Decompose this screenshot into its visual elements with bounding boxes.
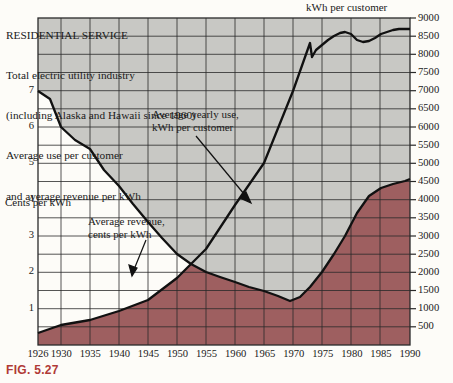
right-tick-6000: 6000 [418,121,439,132]
right-tick-5000: 5000 [418,157,439,168]
header-line4: Average use per customer [6,149,196,162]
left-tick-1: 1 [12,302,34,313]
right-tick-4500: 4500 [418,175,439,186]
left-tick-2: 2 [12,265,34,276]
tickmarks-right [410,18,416,327]
header-line2: Total electric utility industry [6,69,196,82]
right-tick-1500: 1500 [418,284,439,295]
right-tick-8500: 8500 [418,30,439,41]
right-tick-8000: 8000 [418,48,439,59]
right-tick-5500: 5500 [418,139,439,150]
annotation-average-yearly-use: Average yearly use, kWh per customer [152,108,239,134]
right-tick-3000: 3000 [418,230,439,241]
right-tick-2500: 2500 [418,248,439,259]
right-tick-6500: 6500 [418,102,439,113]
right-tick-2000: 2000 [418,266,439,277]
right-tick-9000: 9000 [418,12,439,23]
header-title: RESIDENTIAL SERVICE [6,29,196,42]
right-tick-3500: 3500 [418,211,439,222]
right-tick-500: 500 [418,320,434,331]
x-tick-1990: 1990 [393,348,427,359]
right-tick-7500: 7500 [418,66,439,77]
left-tick-3: 3 [12,229,34,240]
figure-number: FIG. 5.27 [6,363,59,377]
right-tick-4000: 4000 [418,193,439,204]
left-tick-4: 4 [12,193,34,204]
top-axis-title: kWh per customer [306,1,387,13]
left-tick-5: 5 [12,156,34,167]
right-tick-7000: 7000 [418,84,439,95]
annotation-average-revenue: Average revenue, cents per kWh [88,215,165,241]
left-tick-6: 6 [12,120,34,131]
left-tick-7: 7 [12,84,34,95]
right-tick-1000: 1000 [418,302,439,313]
